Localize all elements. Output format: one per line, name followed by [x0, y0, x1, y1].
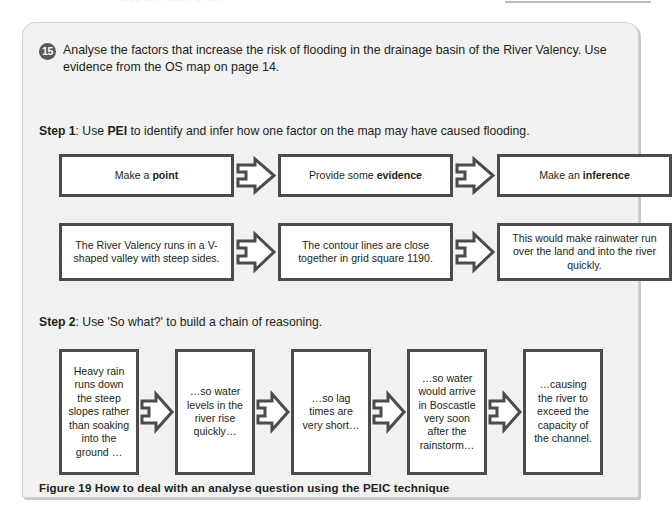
question-text: Analyse the factors that increase the ri… [63, 42, 619, 75]
question-number-badge: 15 [39, 43, 56, 60]
step-1-heading-mid: : Use [76, 124, 108, 138]
step-1-heading-acronym: PEI [107, 124, 127, 138]
box-text-plain: Make an [539, 169, 583, 181]
flow-box-water-arrives-boscastle: …so water would arrive in Boscastle very… [407, 349, 487, 475]
arrow-icon [234, 154, 278, 197]
box-text-plain: Provide some [309, 169, 377, 181]
flow-box-contour-lines: The contour lines are close together in … [278, 223, 453, 281]
box-text-plain: Make a [115, 169, 153, 181]
step-1-heading: Step 1: Use PEI to identify and infer ho… [39, 124, 530, 139]
flow-box-heavy-rain: Heavy rain runs down the steep slopes ra… [59, 349, 139, 475]
arrow-icon [453, 223, 497, 281]
flow-box-make-a-point: Make a point [59, 154, 234, 197]
panel-inner: 15 Analyse the factors that increase the… [23, 23, 638, 497]
question-block: 15 Analyse the factors that increase the… [39, 42, 619, 75]
step-2-label: Step 2 [39, 315, 76, 329]
pei-label-row: Make a point Provide some evidence [59, 154, 672, 197]
box-text-bold: point [152, 169, 178, 181]
box-text-bold: inference [583, 169, 630, 181]
flow-box-exceed-channel-capacity: …causing the river to exceed the capacit… [523, 349, 603, 475]
flow-box-lag-times-short: …so lag times are very short… [291, 349, 371, 475]
flow-box-valency-valley: The River Valency runs in a V-shaped val… [59, 223, 234, 281]
arrow-icon [234, 223, 278, 281]
arrow-icon [139, 349, 175, 475]
flow-box-rainwater-runoff: This would make rainwater run over the l… [497, 223, 672, 281]
arrow-icon [371, 349, 407, 475]
top-rule [505, 1, 651, 3]
arrow-icon [487, 349, 523, 475]
figure-caption: Figure 19 How to deal with an analyse qu… [39, 481, 449, 494]
flow-box-make-an-inference: Make an inference [497, 154, 672, 197]
clipped-heading-ghost: clipped heading text [118, 0, 224, 3]
step-2-heading-tail: : Use 'So what?' to build a chain of rea… [76, 315, 323, 329]
arrow-icon [255, 349, 291, 475]
activity-panel: 15 Analyse the factors that increase the… [22, 22, 639, 498]
box-text-bold: evidence [377, 169, 422, 181]
flow-box-provide-some-evidence: Provide some evidence [278, 154, 453, 197]
clipped-top-sliver: clipped heading text [0, 0, 659, 14]
arrow-icon [453, 154, 497, 197]
pei-example-row: The River Valency runs in a V-shaped val… [59, 223, 672, 281]
step-1-heading-tail: to identify and infer how one factor on … [127, 124, 529, 138]
step-1-label: Step 1 [39, 124, 76, 138]
step-2-heading: Step 2: Use 'So what?' to build a chain … [39, 315, 322, 330]
flow-box-water-levels-rise: …so water levels in the river rise quick… [175, 349, 255, 475]
reasoning-chain-row: Heavy rain runs down the steep slopes ra… [59, 349, 603, 475]
